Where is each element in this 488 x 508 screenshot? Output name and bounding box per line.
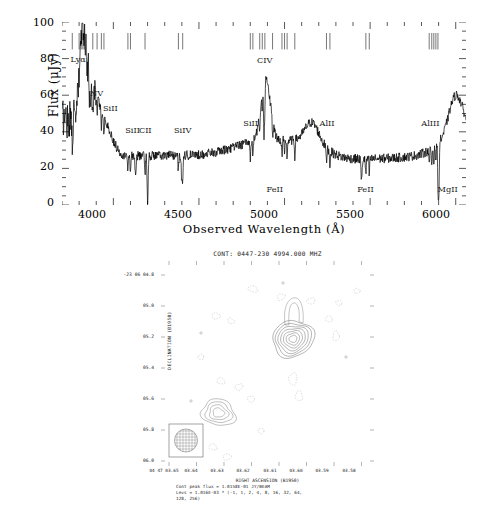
spectrum-y-tick: 60 [18,88,54,101]
spectrum-trace [62,23,466,204]
dec-tick: 05.2 [112,334,154,339]
spectrum-axis-ticks [62,22,466,205]
spectrum-panel: Flux (μJy) 100 80 60 40 20 0 4000 4500 5… [0,0,488,240]
spectral-line-label: AlII [319,118,334,128]
spectral-line-label: MgII [438,184,458,194]
spectral-line-label: FeII [357,184,374,194]
radio-map-panel: CONT: 0447-230 4994.000 MHZ DECLINATION … [0,246,488,508]
dec-tick: 05.4 [112,365,154,370]
spectral-line-label: CIV [257,55,272,65]
spectrum-y-tick: 80 [18,52,54,65]
spectrum-x-tick: 5000 [234,208,294,221]
spectrum-x-tick: 5500 [320,208,380,221]
map-footer-line: Levs = 1.016E-03 * (-1, 1, 2, 4, 8, 16, … [176,490,302,495]
radio-map-title: CONT: 0447-230 4994.000 MHZ [161,250,374,257]
spectral-line-label: AlIII [421,118,439,128]
spectrum-x-tick: 4500 [148,208,208,221]
right-ascension-axis-label: RIGHT ASCENSION (B1950) [161,478,374,483]
ra-tick: 03.58 [332,468,366,473]
spectrum-y-tick: 0 [18,196,54,209]
beam-box [169,424,203,457]
contour-levels [189,281,360,460]
spectral-line-label: SiII [103,103,118,113]
dec-tick: 06.0 [112,458,154,463]
spectrum-y-tick: 100 [18,16,54,29]
spectrum-y-tick: 40 [18,124,54,137]
spectrum-x-tick: 4000 [62,208,122,221]
spectral-line-label: NV [90,88,103,98]
dec-tick: 05.8 [112,427,154,432]
spectral-line-label: FeII [266,184,283,194]
spectrum-x-tick: 6000 [406,208,466,221]
spectrum-y-tick: 20 [18,160,54,173]
spectral-line-label: CII [139,125,152,135]
dec-tick: -23 06 04.8 [112,272,154,277]
spectral-line-label: SiII [243,118,258,128]
spectral-line-label: SiII [125,125,140,135]
radio-contour-plot [161,261,374,466]
dec-tick: 05.6 [112,396,154,401]
absorption-tick-marks [72,33,438,49]
spectral-line-label: Lyα [70,54,85,64]
spectral-line-label: SiIV [174,125,191,135]
map-footer-line: Cont peak flux = 1.0158E-01 JY/BEAM [176,484,270,489]
dec-tick: 05.0 [112,303,154,308]
map-footer-line: 128, 256) [176,496,200,501]
spectrum-x-axis-label: Observed Wavelength (Å) [62,222,466,236]
spectrum-plot [62,22,466,205]
